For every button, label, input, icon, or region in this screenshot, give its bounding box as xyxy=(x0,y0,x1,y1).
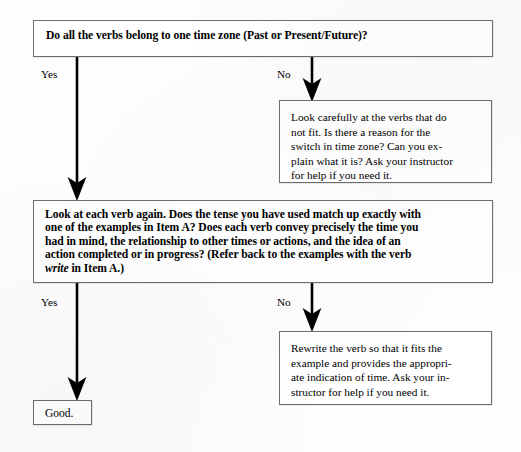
node-action-look-carefully-text: Look carefully at the verbs that do not … xyxy=(291,110,481,183)
node-action-rewrite-verb-text: Rewrite the verb so that it fits the exa… xyxy=(291,341,481,399)
node-question-time-zone: Do all the verbs belong to one time zone… xyxy=(33,20,493,57)
flowchart-canvas: Yes No Yes No Do all the verbs belong to… xyxy=(0,0,521,452)
edge-label-yes-2: Yes xyxy=(41,296,57,308)
line-2: one of the examples in Item A? Does each… xyxy=(45,221,418,234)
line-3: had in mind, the relationship to other t… xyxy=(45,235,401,248)
arrow-yes-branch-1 xyxy=(65,57,89,202)
line-5-rest: in Item A.) xyxy=(69,262,124,275)
line-1: Rewrite the verb so that it fits the xyxy=(291,342,442,354)
line-2: example and provides the appropri- xyxy=(291,357,452,369)
node-question-time-zone-text: Do all the verbs belong to one time zone… xyxy=(46,29,492,42)
line-4: plain what it is? Ask your instructor xyxy=(291,155,453,167)
line-1: Look carefully at the verbs that do xyxy=(291,111,447,123)
node-question-verb-tense-text: Look at each verb again. Does the tense … xyxy=(45,208,480,275)
italic-verb-write: write xyxy=(45,262,69,275)
arrow-no-branch-1 xyxy=(300,57,324,103)
node-terminal-good-text: Good. xyxy=(45,406,91,421)
arrow-no-branch-2 xyxy=(300,283,324,333)
node-action-rewrite-verb: Rewrite the verb so that it fits the exa… xyxy=(279,331,492,405)
node-action-look-carefully: Look carefully at the verbs that do not … xyxy=(279,100,492,183)
line-4: structor for help if you need it. xyxy=(291,386,429,398)
line-3: switch in time zone? Can you ex- xyxy=(291,140,442,152)
node-terminal-good: Good. xyxy=(33,400,92,425)
edge-label-no-2: No xyxy=(277,296,291,308)
line-5: for help if you need it. xyxy=(291,169,392,181)
edge-label-no-1: No xyxy=(277,68,291,80)
node-question-verb-tense: Look at each verb again. Does the tense … xyxy=(33,200,493,283)
line-4: action completed or in progress? (Refer … xyxy=(45,248,411,261)
edge-label-yes-1: Yes xyxy=(41,68,57,80)
line-1: Look at each verb again. Does the tense … xyxy=(45,208,421,221)
line-3: ate indication of time. Ask your in- xyxy=(291,371,449,383)
line-2: not fit. Is there a reason for the xyxy=(291,126,430,138)
arrow-yes-branch-2 xyxy=(65,283,89,402)
